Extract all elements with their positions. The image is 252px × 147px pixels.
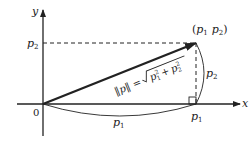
bottom-arc-label: p1 xyxy=(113,116,125,130)
right-angle-marker xyxy=(189,97,196,104)
vector-norm-diagram: y x 0 p2 p1 (p1p2) p1 p2 ‖p‖ = p21+p22 xyxy=(0,0,252,147)
x-tick-label: p1 xyxy=(191,110,203,124)
right-arc-label: p2 xyxy=(206,67,218,81)
x-axis-label: x xyxy=(242,97,249,110)
right-arc xyxy=(196,43,204,104)
point-label: (p1p2) xyxy=(192,23,228,37)
y-axis-label: y xyxy=(31,5,39,18)
svg-text:‖p‖ =: ‖p‖ = xyxy=(113,76,143,97)
origin-label: 0 xyxy=(33,107,39,118)
y-tick-label: p2 xyxy=(27,37,39,51)
bottom-arc xyxy=(43,104,196,116)
